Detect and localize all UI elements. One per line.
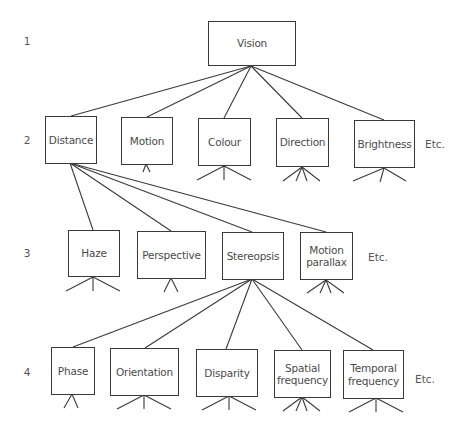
node-perspective-label: Perspective xyxy=(142,249,201,262)
node-brightness: Brightness xyxy=(354,120,415,168)
node-spatial-frequency-label: Spatial frequency xyxy=(277,362,328,387)
node-motion: Motion xyxy=(121,117,173,165)
node-perspective: Perspective xyxy=(137,231,206,279)
node-motion-label: Motion xyxy=(130,135,164,148)
node-vision: Vision xyxy=(208,21,296,66)
node-temporal-frequency: Temporal frequency xyxy=(343,350,404,399)
node-distance: Distance xyxy=(45,116,97,164)
node-temporal-frequency-label: Temporal frequency xyxy=(348,362,399,387)
node-haze-label: Haze xyxy=(81,247,107,260)
node-disparity-label: Disparity xyxy=(204,367,249,380)
node-brightness-label: Brightness xyxy=(358,138,412,151)
node-motion-parallax: Motion parallax xyxy=(300,232,353,280)
node-spatial-frequency: Spatial frequency xyxy=(274,350,331,398)
node-haze: Haze xyxy=(68,230,120,277)
level-number-1: 1 xyxy=(24,35,31,47)
etc-label-level-2: Etc. xyxy=(425,138,445,150)
node-phase-label: Phase xyxy=(58,365,88,378)
node-direction: Direction xyxy=(276,118,329,167)
node-orientation-label: Orientation xyxy=(116,366,173,379)
level-number-2: 2 xyxy=(24,134,31,146)
node-colour-label: Colour xyxy=(208,136,241,149)
node-direction-label: Direction xyxy=(280,136,326,149)
level-number-4: 4 xyxy=(24,366,31,378)
vision-hierarchy-diagram: 1 2 3 4 Vision Distance Motion Colour Di… xyxy=(0,0,462,433)
node-vision-label: Vision xyxy=(237,37,267,50)
node-orientation: Orientation xyxy=(110,348,179,396)
level-number-3: 3 xyxy=(24,247,31,259)
etc-label-level-3: Etc. xyxy=(368,251,388,263)
node-motion-parallax-label: Motion parallax xyxy=(306,244,347,269)
etc-label-level-4: Etc. xyxy=(415,373,435,385)
node-phase: Phase xyxy=(51,347,95,395)
node-distance-label: Distance xyxy=(49,134,93,147)
node-stereopsis-label: Stereopsis xyxy=(227,250,280,263)
node-stereopsis: Stereopsis xyxy=(222,232,284,280)
node-colour: Colour xyxy=(198,118,251,166)
node-disparity: Disparity xyxy=(196,349,258,397)
